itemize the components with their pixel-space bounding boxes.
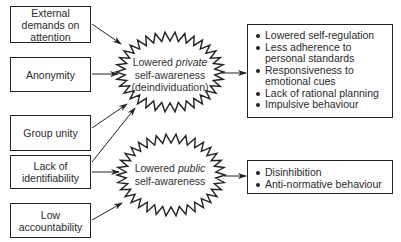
arrow-external-to-private [92,24,121,44]
arrow-accountability-to-public [92,203,122,220]
cause-label: Anonymity [26,69,75,81]
cause-label: Group unity [23,127,77,139]
cause-group-unity: Group unity [10,115,91,151]
state-line3: (deindividuation) [131,81,208,93]
outcome-item: Lowered self-regulation [256,30,386,42]
cause-lack-of-identifiability: Lack of identifiability [10,155,91,189]
state-emphasis: public [178,162,205,174]
public-state-label: Lowered public self-awareness [128,162,212,187]
cause-low-accountability: Low accountability [10,203,91,238]
state-line2: self-awareness [135,69,206,81]
outcome-item: Impulsive behaviour [256,99,386,111]
public-outcomes-box: Disinhibition Anti-normative behaviour [247,160,393,194]
state-line2: self-awareness [135,175,206,187]
cause-label: External demands on attention [11,7,90,43]
outcome-item: Disinhibition [256,167,386,179]
outcome-item: Anti-normative behaviour [256,179,386,191]
outcome-item: Responsiveness to emotional cues [256,65,386,88]
cause-external-demands: External demands on attention [10,6,91,43]
state-emphasis: private [176,56,208,68]
cause-label: Low accountability [11,209,90,233]
cause-anonymity: Anonymity [10,57,91,92]
outcome-item: Less adherence to personal standards [256,42,386,65]
state-prefix: Lowered [135,162,178,174]
private-outcomes-box: Lowered self-regulation Less adherence t… [247,24,393,118]
private-state-label: Lowered private self-awareness (deindivi… [128,56,212,94]
state-prefix: Lowered [133,56,176,68]
cause-label: Lack of identifiability [11,160,90,184]
